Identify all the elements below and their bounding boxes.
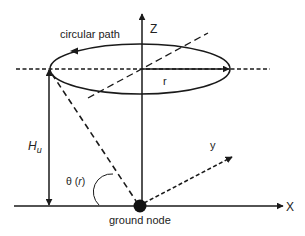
radius-label: r <box>163 75 167 87</box>
circular-path-label: circular path <box>60 28 120 40</box>
ground-node-label: ground node <box>109 214 171 226</box>
diagram-canvas: circular path Z r Hu θ (r) y X ground no… <box>0 0 305 236</box>
ground-node-dot <box>134 200 147 213</box>
z-axis-label: Z <box>150 22 157 36</box>
x-axis-label: X <box>286 200 294 214</box>
y-axis-label: y <box>210 139 216 151</box>
angle-label: θ (r) <box>66 175 85 187</box>
y-axis <box>144 157 232 203</box>
height-label: Hu <box>28 139 42 155</box>
elevation-angle-arc <box>93 174 113 205</box>
plane-diagonal-dashed-line <box>88 33 208 98</box>
